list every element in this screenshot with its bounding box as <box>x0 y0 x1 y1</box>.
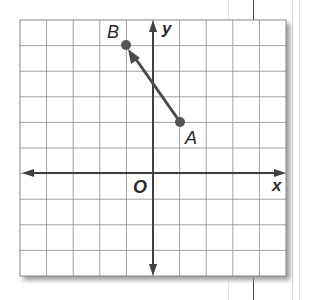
y-axis-label: y <box>162 20 171 37</box>
point-b <box>121 40 131 50</box>
point-a <box>175 117 185 127</box>
point-b-label: B <box>107 23 119 41</box>
x-axis-label: x <box>272 177 281 194</box>
point-a-label: A <box>185 129 197 147</box>
origin-label: O <box>133 178 147 196</box>
coordinate-plane <box>0 0 310 300</box>
